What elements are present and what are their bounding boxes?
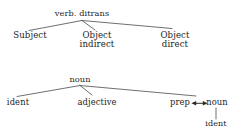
node-prep: prep — [170, 98, 190, 107]
connector-arrowheads — [191, 101, 207, 105]
node-subject-label: Subject — [13, 31, 47, 40]
node-noun: noun — [69, 75, 90, 84]
node-object-direct: Object direct — [160, 31, 189, 49]
syntax-tree-diagram: verb. ditrans Subject Object indirect Ob… — [0, 0, 238, 136]
node-prep-label: prep — [170, 98, 190, 107]
node-subject: Subject — [13, 31, 47, 40]
edge-ditrans-object-indirect — [82, 21, 95, 31]
node-ident-label: ident — [7, 98, 29, 107]
edge-ditrans-subject — [29, 21, 82, 31]
node-object-direct-label-line2: direct — [160, 40, 189, 49]
node-object-indirect: Object indirect — [80, 31, 115, 49]
node-verb-ditrans-label: verb. ditrans — [55, 9, 110, 18]
edge-noun-prep — [80, 86, 196, 97]
node-noun-label: noun — [69, 75, 90, 84]
node-linked-noun: noun — [206, 98, 228, 107]
node-ident: ident — [7, 98, 29, 107]
node-linked-ident: ident — [205, 120, 226, 128]
node-linked-noun-label: noun — [206, 98, 228, 107]
node-object-indirect-label-line2: indirect — [80, 40, 115, 49]
node-verb-ditrans: verb. ditrans — [55, 9, 110, 18]
arrowhead-left — [191, 101, 196, 105]
edge-ditrans-object-direct — [82, 21, 172, 29]
tree-edges — [0, 0, 238, 136]
node-linked-ident-label: ident — [205, 120, 226, 128]
node-adjective-label: adjective — [77, 98, 116, 107]
edge-noun-ident — [17, 86, 80, 97]
edge-noun-adjective — [80, 86, 92, 96]
node-adjective: adjective — [77, 98, 116, 107]
